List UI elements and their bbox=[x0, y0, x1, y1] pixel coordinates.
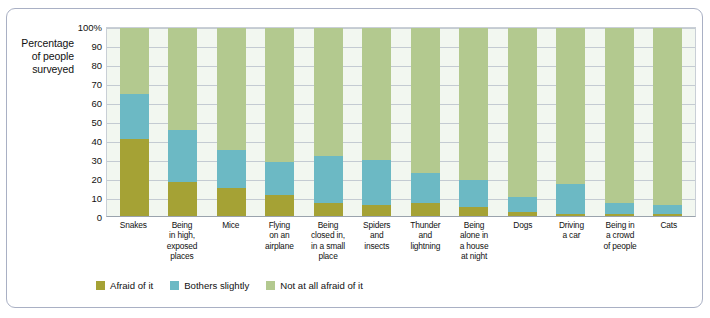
x-axis-category-label-line: place bbox=[305, 251, 352, 261]
legend-item[interactable]: Afraid of it bbox=[96, 280, 153, 291]
legend-item[interactable]: Bothers slightly bbox=[170, 280, 249, 291]
x-axis-category-labels: SnakesBeingin high,exposedplacesMiceFlyi… bbox=[106, 220, 696, 276]
bar-segment bbox=[362, 28, 391, 160]
stacked-bar[interactable] bbox=[265, 28, 294, 216]
bar-segment bbox=[556, 184, 585, 214]
bar-segment bbox=[265, 195, 294, 216]
stacked-bar[interactable] bbox=[168, 28, 197, 216]
x-axis-category-label: Snakes bbox=[109, 220, 158, 276]
bar-segment bbox=[168, 28, 197, 130]
x-axis-category-label-line: Being bbox=[451, 220, 498, 230]
y-axis-tick-label: 90 bbox=[91, 41, 102, 52]
bar-segment bbox=[508, 28, 537, 197]
x-axis-category-label-line: alone in bbox=[451, 230, 498, 240]
y-axis-tick-labels: 100%9080706050403020100 bbox=[74, 27, 104, 217]
bar-segment bbox=[411, 173, 440, 203]
stacked-bar[interactable] bbox=[120, 28, 149, 216]
bar-segment bbox=[265, 162, 294, 196]
x-axis-category-label-line: a car bbox=[548, 230, 595, 240]
x-axis-category-label: Mice bbox=[206, 220, 255, 276]
bar-segment bbox=[314, 28, 343, 156]
x-axis-category-label-line: Mice bbox=[207, 220, 254, 230]
legend-label: Afraid of it bbox=[110, 280, 153, 291]
y-axis-caption-line-3: surveyed bbox=[8, 63, 74, 76]
plot-block: 100%9080706050403020100 bbox=[74, 27, 696, 217]
x-axis-category-label: Drivinga car bbox=[547, 220, 596, 276]
x-axis-category-label-line: and bbox=[402, 230, 449, 240]
x-axis-category-label-line: exposed bbox=[159, 241, 206, 251]
x-axis-category-label-line: Being bbox=[305, 220, 352, 230]
bar-segment bbox=[556, 214, 585, 216]
bar-segment bbox=[168, 130, 197, 183]
bar-segment bbox=[168, 182, 197, 216]
legend: Afraid of itBothers slightlyNot at all a… bbox=[96, 280, 363, 291]
bar-segment bbox=[653, 214, 682, 216]
bar-segment bbox=[314, 156, 343, 203]
x-axis-category-label-line: Dogs bbox=[499, 220, 546, 230]
x-axis-category-label: Spidersandinsects bbox=[352, 220, 401, 276]
x-axis-category-label-line: places bbox=[159, 251, 206, 261]
bar-segment bbox=[217, 150, 246, 188]
legend-swatch-afraid bbox=[96, 281, 105, 290]
x-axis-category-label-line: of people bbox=[597, 241, 644, 251]
bar-segment bbox=[605, 203, 634, 214]
bar-segment bbox=[362, 160, 391, 205]
bar-segment bbox=[314, 203, 343, 216]
bar-slot bbox=[256, 28, 305, 216]
legend-swatch-some bbox=[170, 281, 179, 290]
x-axis-category-label: Dogs bbox=[498, 220, 547, 276]
x-axis-category-label: Beingalone ina houseat night bbox=[450, 220, 499, 276]
legend-label: Bothers slightly bbox=[184, 280, 249, 291]
bar-segment bbox=[459, 207, 488, 216]
legend-swatch-none bbox=[266, 281, 275, 290]
stacked-bar[interactable] bbox=[362, 28, 391, 216]
x-axis-category-label-line: at night bbox=[451, 251, 498, 261]
figure: Percentage of people surveyed 100%908070… bbox=[0, 0, 710, 318]
x-axis-category-label-line: Driving bbox=[548, 220, 595, 230]
bar-segment bbox=[217, 188, 246, 216]
bar-slot bbox=[110, 28, 159, 216]
x-axis-category-label: Being ina crowdof people bbox=[596, 220, 645, 276]
stacked-bar[interactable] bbox=[556, 28, 585, 216]
x-axis-category-label: Thunderandlightning bbox=[401, 220, 450, 276]
stacked-bar[interactable] bbox=[459, 28, 488, 216]
stacked-bar[interactable] bbox=[653, 28, 682, 216]
bar-slot bbox=[304, 28, 353, 216]
x-axis-category-label-line: in a small bbox=[305, 241, 352, 251]
x-axis-category-label-line: on an bbox=[256, 230, 303, 240]
bar-slot bbox=[644, 28, 693, 216]
bar-segment bbox=[120, 28, 149, 94]
x-axis-category-label-line: a crowd bbox=[597, 230, 644, 240]
bar-slot bbox=[207, 28, 256, 216]
bar-segment bbox=[411, 28, 440, 173]
x-axis-category-label-line: Thunder bbox=[402, 220, 449, 230]
y-axis-tick-label: 70 bbox=[91, 79, 102, 90]
bar-slot bbox=[595, 28, 644, 216]
y-axis-caption-line-2: of people bbox=[8, 50, 74, 63]
plot-area bbox=[106, 27, 696, 217]
x-axis-category-label-line: lightning bbox=[402, 241, 449, 251]
x-axis-category-label-line: Flying bbox=[256, 220, 303, 230]
x-axis-category-label: Beingclosed in,in a smallplace bbox=[304, 220, 353, 276]
y-axis-tick-label: 60 bbox=[91, 98, 102, 109]
y-axis-tick-label: 0 bbox=[97, 212, 102, 223]
x-axis-category-label-line: and bbox=[353, 230, 400, 240]
x-axis-category-label: Beingin high,exposedplaces bbox=[158, 220, 207, 276]
bar-segment bbox=[508, 212, 537, 216]
x-axis-category-label-line: in high, bbox=[159, 230, 206, 240]
x-axis-category-label-line: airplane bbox=[256, 241, 303, 251]
bar-segment bbox=[508, 197, 537, 212]
bar-segment bbox=[605, 28, 634, 203]
bar-segment bbox=[120, 94, 149, 139]
legend-item[interactable]: Not at all afraid of it bbox=[266, 280, 363, 291]
stacked-bar[interactable] bbox=[508, 28, 537, 216]
stacked-bar[interactable] bbox=[411, 28, 440, 216]
bar-slot bbox=[353, 28, 402, 216]
bar-slot bbox=[498, 28, 547, 216]
stacked-bar[interactable] bbox=[605, 28, 634, 216]
stacked-bar[interactable] bbox=[217, 28, 246, 216]
x-axis-category-label-line: Spiders bbox=[353, 220, 400, 230]
x-axis-category-label-line: closed in, bbox=[305, 230, 352, 240]
x-axis-category-label-line: Snakes bbox=[110, 220, 157, 230]
stacked-bar[interactable] bbox=[314, 28, 343, 216]
